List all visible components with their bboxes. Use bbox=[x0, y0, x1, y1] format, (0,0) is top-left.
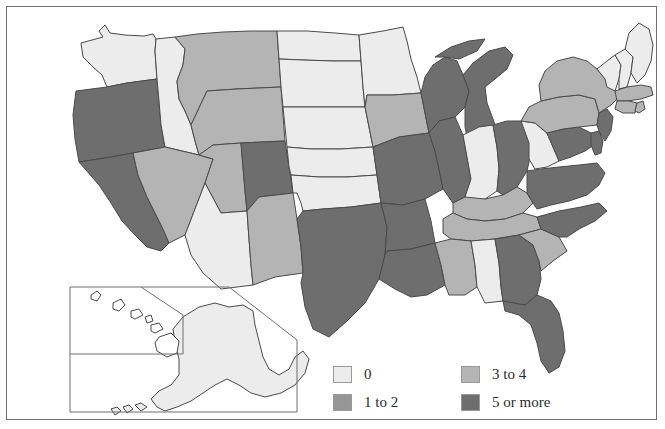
legend-swatch-0 bbox=[333, 366, 352, 383]
state-NC[interactable] bbox=[537, 203, 607, 237]
state-LA[interactable] bbox=[379, 243, 445, 297]
states-layer bbox=[73, 23, 653, 415]
state-SD[interactable] bbox=[279, 59, 365, 107]
legend-column-right: 3 to 4 5 or more bbox=[461, 360, 611, 416]
state-VA[interactable] bbox=[527, 163, 605, 209]
legend-item-5-or-more[interactable]: 5 or more bbox=[461, 388, 611, 416]
legend-swatch-5-or-more bbox=[461, 394, 480, 411]
state-NM[interactable] bbox=[247, 193, 303, 285]
legend-swatch-1-to-2 bbox=[333, 394, 352, 411]
alaska-aleutians bbox=[111, 403, 147, 415]
state-AK[interactable] bbox=[151, 303, 309, 411]
legend-label-5-or-more: 5 or more bbox=[492, 395, 550, 410]
map-canvas bbox=[7, 7, 656, 419]
state-WA[interactable] bbox=[81, 25, 157, 87]
figure-root: 0 1 to 2 3 to 4 5 or more bbox=[0, 0, 665, 429]
legend-item-3-to-4[interactable]: 3 to 4 bbox=[461, 360, 611, 388]
legend-swatch-3-to-4 bbox=[461, 366, 480, 383]
state-KS[interactable] bbox=[287, 147, 377, 177]
state-CT[interactable] bbox=[615, 101, 637, 113]
us-choropleth-map bbox=[7, 7, 656, 419]
legend: 0 1 to 2 3 to 4 5 or more bbox=[333, 360, 633, 418]
state-HI[interactable] bbox=[91, 291, 179, 357]
legend-label-1-to-2: 1 to 2 bbox=[364, 395, 398, 410]
legend-label-3-to-4: 3 to 4 bbox=[492, 367, 526, 382]
legend-label-0: 0 bbox=[364, 367, 372, 382]
state-NE[interactable] bbox=[283, 107, 373, 149]
state-ND[interactable] bbox=[277, 31, 361, 61]
state-TX[interactable] bbox=[297, 203, 387, 337]
state-IN[interactable] bbox=[463, 125, 499, 203]
